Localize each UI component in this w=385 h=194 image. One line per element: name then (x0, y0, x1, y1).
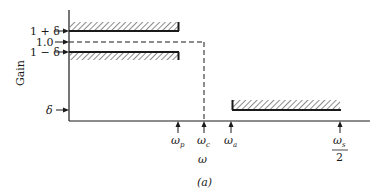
x-axis-label: ω (198, 153, 207, 166)
y-marker-delta: δ (46, 104, 69, 117)
svg-text:2: 2 (336, 151, 343, 164)
svg-text:c: c (206, 141, 210, 149)
svg-text:δ: δ (46, 104, 53, 117)
figure-caption: (a) (197, 176, 212, 189)
x-marker-omega-s-over-2: ω s 2 (332, 121, 348, 164)
x-marker-omega-c: ω c (197, 121, 210, 149)
svg-text:ω: ω (197, 134, 206, 147)
svg-text:ω: ω (333, 134, 342, 147)
y-marker-1-minus-delta: 1 − δ (30, 46, 69, 59)
svg-text:a: a (233, 141, 237, 149)
svg-text:ω: ω (224, 134, 233, 147)
stopband-band (232, 100, 341, 110)
x-marker-omega-a: ω a (224, 121, 237, 149)
svg-text:ω: ω (171, 134, 180, 147)
passband-upper-band (69, 22, 179, 31)
filter-spec-diagram: 1 + δ 1.0 1 − δ δ Gain ω p ω c ω a (0, 0, 385, 194)
svg-text:p: p (180, 141, 185, 149)
x-marker-omega-p: ω p (171, 121, 185, 149)
passband-lower-band (69, 52, 179, 60)
y-axis-label: Gain (14, 60, 27, 86)
svg-text:s: s (342, 141, 346, 149)
